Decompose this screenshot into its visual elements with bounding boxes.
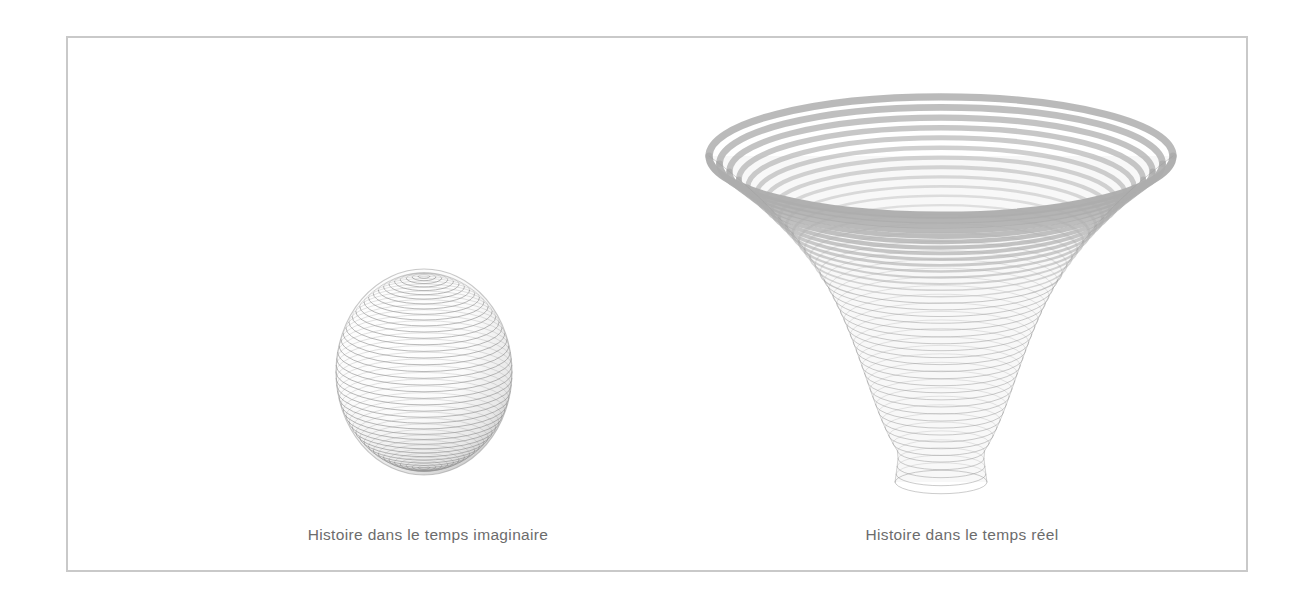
caption-imaginary-time: Histoire dans le temps imaginaire xyxy=(178,526,678,544)
figure-panel-real-time xyxy=(688,38,1248,570)
figure-frame-border: Histoire dans le temps imaginaire Histoi… xyxy=(66,36,1248,572)
figure-page: Histoire dans le temps imaginaire Histoi… xyxy=(0,0,1306,604)
caption-real-time: Histoire dans le temps réel xyxy=(688,526,1236,544)
figure-panel-imaginary-time xyxy=(168,38,688,570)
sphere-wireframe-graphic xyxy=(168,38,688,574)
flared-bowl-wireframe-graphic xyxy=(688,38,1248,574)
